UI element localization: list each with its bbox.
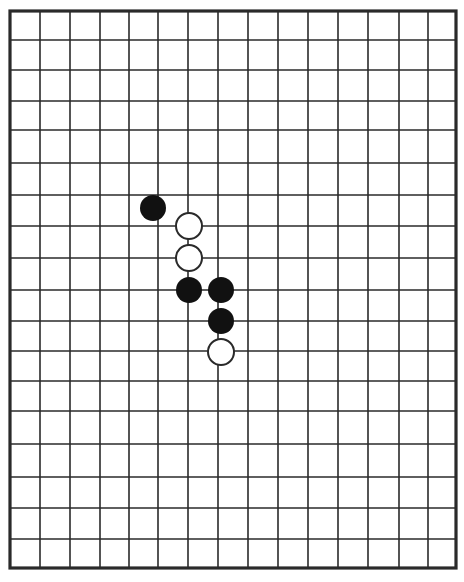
white-stone — [176, 245, 202, 271]
go-board — [0, 0, 464, 582]
black-stone — [176, 277, 202, 303]
stones — [140, 195, 234, 365]
black-stone — [208, 277, 234, 303]
black-stone — [208, 308, 234, 334]
black-stone — [140, 195, 166, 221]
white-stone — [208, 339, 234, 365]
white-stone — [176, 213, 202, 239]
